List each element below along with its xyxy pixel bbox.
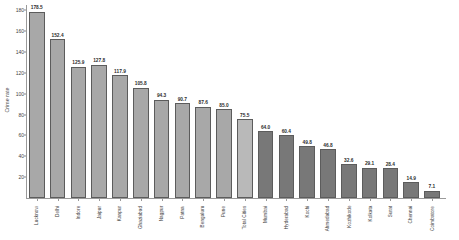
bar-value-label: 152.4 xyxy=(52,33,64,38)
plot-area: 178.5152.4125.9127.8117.9105.894.390.787… xyxy=(26,0,450,198)
bar-group[interactable]: 90.7 xyxy=(175,0,191,198)
x-tick-mark xyxy=(266,198,267,201)
bar-group[interactable]: 94.3 xyxy=(154,0,170,198)
x-tick-label: Mumbai xyxy=(258,201,274,239)
x-tick-mark xyxy=(349,198,350,201)
bar[interactable] xyxy=(403,182,419,198)
x-tick-label-text: Hyderabad xyxy=(284,205,289,228)
y-tick-label: 140 xyxy=(16,49,24,55)
bar-value-label: 178.5 xyxy=(31,5,43,10)
bar-value-label: 60.4 xyxy=(282,129,291,134)
x-tick-label-text: Kozhikode xyxy=(346,205,351,227)
x-tick-mark xyxy=(58,198,59,201)
x-tick-label-text: Jaipur xyxy=(97,205,102,218)
x-tick-mark xyxy=(37,198,38,201)
y-tick-label: 180 xyxy=(16,7,24,13)
bar[interactable] xyxy=(237,119,253,198)
bar-value-label: 87.6 xyxy=(198,100,207,105)
bar[interactable] xyxy=(91,65,107,198)
x-axis-labels: LucknowDelhiIndoreJaipurKanpurGhaziabadN… xyxy=(26,201,450,240)
bar-value-label: 32.6 xyxy=(344,158,353,163)
x-tick-label: Jaipur xyxy=(91,201,107,239)
x-tick-label: Kozhikode xyxy=(341,201,357,239)
x-tick-label-text: Pune xyxy=(221,205,226,216)
bar[interactable] xyxy=(195,107,211,198)
bar-value-label: 127.8 xyxy=(93,58,105,63)
bar-value-label: 46.8 xyxy=(323,143,332,148)
x-tick-mark xyxy=(182,198,183,201)
bar-group[interactable]: 87.6 xyxy=(195,0,211,198)
bar-group[interactable]: 125.9 xyxy=(71,0,87,198)
x-tick-mark xyxy=(432,198,433,201)
x-axis-line xyxy=(26,198,446,199)
bar[interactable] xyxy=(258,131,274,198)
x-tick-mark xyxy=(203,198,204,201)
bar[interactable] xyxy=(216,109,232,198)
x-tick-label-text: Bengaluru xyxy=(201,206,206,228)
bar-group[interactable]: 85.0 xyxy=(216,0,232,198)
bar-group[interactable]: 105.8 xyxy=(133,0,149,198)
y-axis-title: Crime rate xyxy=(0,0,14,200)
bar-group[interactable]: 28.4 xyxy=(383,0,399,198)
bar[interactable] xyxy=(133,88,149,198)
bar[interactable] xyxy=(362,168,378,198)
x-tick-mark xyxy=(328,198,329,201)
bar[interactable] xyxy=(71,67,87,198)
bar-group[interactable]: 178.5 xyxy=(29,0,45,198)
bar-value-label: 75.5 xyxy=(240,113,249,118)
x-tick-label-text: Coimbatore xyxy=(429,206,434,231)
bar[interactable] xyxy=(299,146,315,198)
y-axis-ticks: 20406080100120140160180 xyxy=(14,0,26,200)
x-tick-mark xyxy=(141,198,142,201)
bar-group[interactable]: 29.1 xyxy=(362,0,378,198)
x-tick-label: Ahmedabad xyxy=(320,201,336,239)
bar-group[interactable]: 75.5 xyxy=(237,0,253,198)
bar-group[interactable]: 64.0 xyxy=(258,0,274,198)
bar-value-label: 29.1 xyxy=(365,161,374,166)
x-tick-label: Lucknow xyxy=(29,201,45,239)
bar[interactable] xyxy=(112,75,128,198)
bar-group[interactable]: 117.9 xyxy=(112,0,128,198)
bar-value-label: 49.8 xyxy=(302,140,311,145)
x-tick-label-text: Kanpur xyxy=(117,205,122,220)
x-tick-mark xyxy=(120,198,121,201)
bar[interactable] xyxy=(154,100,170,198)
bar-group[interactable]: 49.8 xyxy=(299,0,315,198)
x-tick-label-text: Ghaziabad xyxy=(138,205,143,228)
bar[interactable] xyxy=(383,168,399,198)
bar[interactable] xyxy=(320,149,336,198)
x-tick-label: Coimbatore xyxy=(424,201,440,239)
bar-group[interactable]: 152.4 xyxy=(50,0,66,198)
x-tick-label-text: Surat xyxy=(388,205,393,216)
x-tick-mark xyxy=(78,198,79,201)
x-tick-mark xyxy=(370,198,371,201)
bar-group[interactable]: 32.6 xyxy=(341,0,357,198)
bar-value-label: 94.3 xyxy=(157,93,166,98)
x-tick-mark xyxy=(411,198,412,201)
x-tick-label: Kochi xyxy=(299,201,315,239)
bar-group[interactable]: 7.1 xyxy=(424,0,440,198)
x-tick-mark xyxy=(390,198,391,201)
bar[interactable] xyxy=(29,12,45,198)
x-tick-mark xyxy=(245,198,246,201)
x-tick-label: Kanpur xyxy=(112,201,128,239)
bar-value-label: 90.7 xyxy=(178,97,187,102)
bar-value-label: 105.8 xyxy=(135,81,147,86)
bar-value-label: 7.1 xyxy=(429,184,436,189)
x-tick-label-text: Nagpur xyxy=(159,206,164,222)
bar[interactable] xyxy=(279,135,295,198)
bar-group[interactable]: 46.8 xyxy=(320,0,336,198)
x-tick-label-text: Ahmedabad xyxy=(325,206,330,232)
x-tick-label-text: Chennai xyxy=(409,206,414,224)
bar-group[interactable]: 60.4 xyxy=(279,0,295,198)
bar[interactable] xyxy=(341,164,357,198)
bar-chart: Crime rate 20406080100120140160180 178.5… xyxy=(0,0,459,240)
bar[interactable] xyxy=(424,191,440,198)
bar[interactable] xyxy=(175,103,191,198)
bar[interactable] xyxy=(50,39,66,198)
bar-group[interactable]: 14.9 xyxy=(403,0,419,198)
bar-value-label: 85.0 xyxy=(219,103,228,108)
x-tick-mark xyxy=(286,198,287,201)
x-tick-label: Surat xyxy=(383,201,399,239)
bar-group[interactable]: 127.8 xyxy=(91,0,107,198)
